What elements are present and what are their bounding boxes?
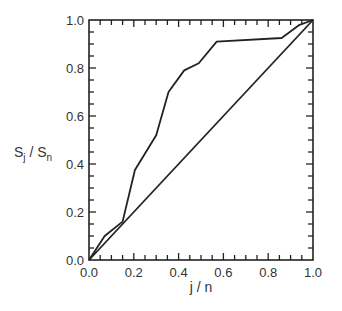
x-tick-label: 0.4 (170, 265, 188, 280)
y-tick-label: 0.0 (66, 253, 84, 268)
lorenz-chart: 0.00.20.40.60.81.00.00.20.40.60.81.0 j /… (0, 0, 342, 311)
data-series (89, 20, 313, 260)
y-tick-label: 0.6 (66, 109, 84, 124)
y-axis-label: Sj / Sn (14, 144, 52, 163)
y-tick-label: 1.0 (66, 13, 84, 28)
x-tick-label: 0.8 (259, 265, 277, 280)
y-tick-label: 0.2 (66, 205, 84, 220)
x-tick-label: 0.6 (214, 265, 232, 280)
x-tick-label: 1.0 (304, 265, 322, 280)
y-tick-label: 0.4 (66, 157, 84, 172)
diagonal-line (89, 20, 313, 260)
y-tick-label: 0.8 (66, 61, 84, 76)
x-axis-label: j / n (189, 279, 213, 295)
x-tick-label: 0.2 (125, 265, 143, 280)
